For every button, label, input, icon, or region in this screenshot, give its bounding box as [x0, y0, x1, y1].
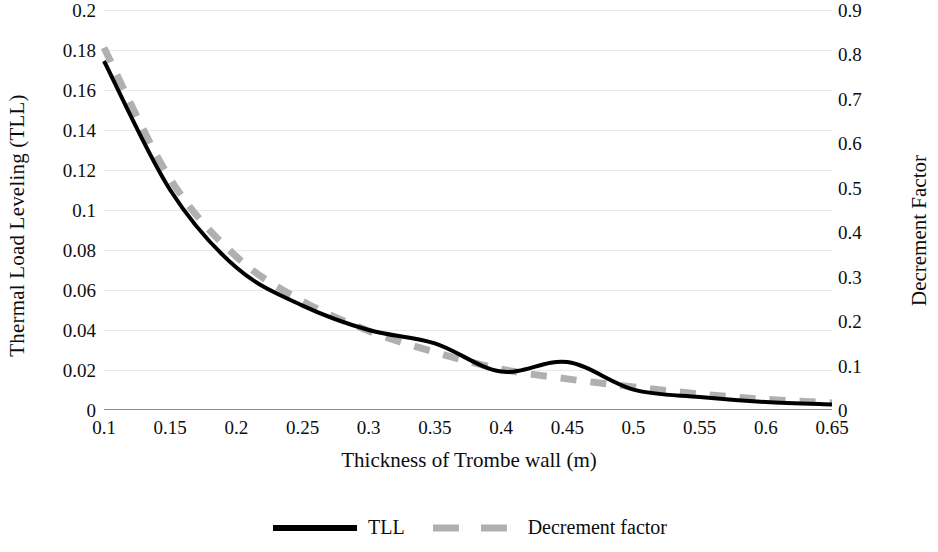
y-axis-left-tick-label: 0.12 [63, 161, 96, 180]
y-axis-left-ticks: 00.020.040.060.080.10.120.140.160.180.2 [34, 0, 96, 552]
y-axis-title-left: Thermal Load Leveling (TLL) [0, 30, 34, 420]
legend-label-decrement-factor: Decrement factor [528, 516, 667, 539]
y-axis-right-tick-label: 0.8 [838, 45, 862, 64]
legend-item-tll[interactable]: TLL [271, 516, 405, 539]
y-axis-title-right: Decrement Factor [902, 80, 936, 380]
y-axis-title-left-text: Thermal Load Leveling (TLL) [5, 94, 30, 357]
y-axis-right-tick-label: 0.7 [838, 89, 862, 108]
y-axis-left-tick-label: 0.2 [72, 1, 96, 20]
legend-item-decrement-factor[interactable]: Decrement factor [431, 516, 667, 539]
legend-solid-line-icon [271, 521, 359, 535]
y-axis-right-ticks: 00.10.20.30.40.50.60.70.80.9 [838, 0, 884, 552]
plot-area [104, 10, 832, 410]
y-axis-left-tick-label: 0.16 [63, 81, 96, 100]
legend-label-tll: TLL [368, 516, 405, 539]
y-axis-right-tick-label: 0.3 [838, 267, 862, 286]
legend-dashed-line-icon [431, 521, 519, 535]
y-axis-left-tick-label: 0.14 [63, 121, 96, 140]
y-axis-right-tick-label: 0.2 [838, 312, 862, 331]
y-axis-right-tick-label: 0.9 [838, 1, 862, 20]
y-axis-left-tick-label: 0.08 [63, 241, 96, 260]
chart-legend: TLL Decrement factor [0, 516, 938, 539]
x-axis-tick-label: 0.1 [92, 418, 116, 437]
y-axis-title-right-text: Decrement Factor [907, 154, 932, 305]
y-axis-left-tick-label: 0.04 [63, 321, 96, 340]
series-line-decrement-factor [104, 48, 832, 403]
series-lines [104, 10, 832, 410]
x-axis-tick-label: 0.55 [683, 418, 716, 437]
y-axis-right-tick-label: 0.6 [838, 134, 862, 153]
x-axis-tick-label: 0.25 [286, 418, 319, 437]
x-axis-tick-label: 0.4 [489, 418, 513, 437]
x-axis-tick-label: 0.5 [622, 418, 646, 437]
x-axis-tick-label: 0.45 [551, 418, 584, 437]
x-axis-tick-label: 0.6 [754, 418, 778, 437]
chart-container: Thermal Load Leveling (TLL) Decrement Fa… [0, 0, 938, 552]
x-axis-tick-label: 0.3 [357, 418, 381, 437]
x-axis-tick-label: 0.15 [154, 418, 187, 437]
x-axis-tick-label: 0.65 [815, 418, 848, 437]
x-axis-tick-label: 0.35 [418, 418, 451, 437]
y-axis-left-tick-label: 0.06 [63, 281, 96, 300]
y-axis-left-tick-label: 0.1 [72, 201, 96, 220]
y-axis-right-tick-label: 0.5 [838, 178, 862, 197]
x-axis-tick-label: 0.2 [224, 418, 248, 437]
y-axis-left-tick-label: 0.02 [63, 361, 96, 380]
x-axis-title: Thickness of Trombe wall (m) [0, 448, 938, 473]
y-axis-right-tick-label: 0.4 [838, 223, 862, 242]
y-axis-right-tick-label: 0.1 [838, 356, 862, 375]
y-axis-left-tick-label: 0.18 [63, 41, 96, 60]
